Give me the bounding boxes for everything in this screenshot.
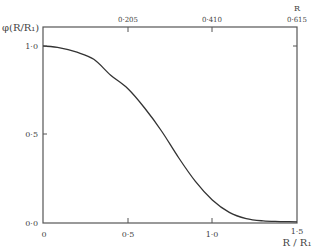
- x-tick-label-0: 0: [41, 230, 46, 239]
- x-tick-label-15: 1·5: [291, 227, 304, 236]
- chart: φ(R/R₁) 1·0 0·5 0·0 0 0·5 1·0 1·5 R / R₁…: [0, 0, 316, 249]
- y-tick-label-1: 1·0: [25, 42, 38, 51]
- x-axis-label: R / R₁: [283, 237, 312, 248]
- x-tick-label-05: 0·5: [122, 230, 135, 239]
- y-tick-label-0: 0·0: [25, 219, 38, 228]
- plot-frame: [43, 27, 297, 223]
- y-axis-label: φ(R/R₁): [2, 22, 39, 33]
- top-axis-label: R: [294, 4, 301, 13]
- top-tick-label-2: 0·410: [202, 16, 222, 24]
- data-curve: [43, 46, 297, 222]
- y-tick-label-05: 0·5: [25, 130, 38, 139]
- top-tick-label-1: 0·205: [118, 16, 138, 24]
- top-tick-label-3: 0·615: [287, 16, 307, 24]
- x-tick-label-1: 1·0: [206, 230, 219, 239]
